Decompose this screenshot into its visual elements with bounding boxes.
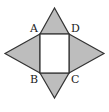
diagram-canvas: A D B C <box>0 0 109 112</box>
pyramid-net-diagram: A D B C <box>0 0 109 112</box>
vertex-label-b: B <box>30 73 38 86</box>
vertex-label-a: A <box>29 22 39 35</box>
triangle-right <box>69 34 104 73</box>
vertex-label-d: D <box>71 22 80 35</box>
square-abcd <box>40 34 69 73</box>
vertex-label-c: C <box>71 73 79 86</box>
triangle-top <box>40 8 69 34</box>
triangle-left <box>5 34 40 73</box>
triangle-bottom <box>40 73 69 98</box>
